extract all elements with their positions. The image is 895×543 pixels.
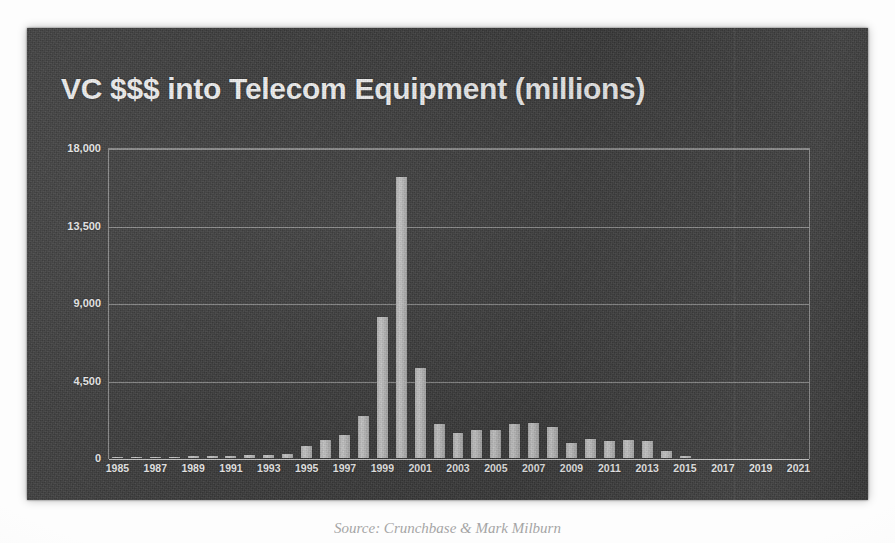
x-tick-label-1991: 1991 bbox=[219, 462, 242, 474]
bar-2011 bbox=[604, 441, 615, 458]
x-tick-label-1999: 1999 bbox=[371, 462, 394, 474]
bar-1991 bbox=[225, 456, 236, 458]
bar-1989 bbox=[188, 456, 199, 458]
x-tick-label-2009: 2009 bbox=[560, 462, 583, 474]
bar-1996 bbox=[320, 440, 331, 458]
bar-1988 bbox=[169, 457, 180, 458]
y-tick-label-0: 0 bbox=[95, 452, 101, 464]
x-tick-label-1987: 1987 bbox=[144, 462, 167, 474]
bar-1998 bbox=[358, 416, 369, 458]
x-tick-label-1997: 1997 bbox=[333, 462, 356, 474]
bar-2007 bbox=[528, 423, 539, 458]
x-tick-label-1989: 1989 bbox=[181, 462, 204, 474]
y-axis-labels: 04,5009,00013,50018,000 bbox=[27, 28, 101, 500]
x-tick-label-2011: 2011 bbox=[598, 462, 621, 474]
x-tick-label-2003: 2003 bbox=[446, 462, 469, 474]
x-tick-label-1995: 1995 bbox=[295, 462, 318, 474]
x-tick-label-2013: 2013 bbox=[636, 462, 659, 474]
bar-2000 bbox=[396, 177, 407, 458]
scanned-page: VC $$$ into Telecom Equipment (millions)… bbox=[0, 0, 895, 543]
bar-2012 bbox=[623, 440, 634, 458]
x-tick-label-1993: 1993 bbox=[257, 462, 280, 474]
x-axis-labels: 1985198719891991199319951997199920012003… bbox=[108, 462, 808, 482]
bar-1987 bbox=[150, 457, 161, 458]
x-tick-label-2021: 2021 bbox=[787, 462, 810, 474]
y-tick-label-9000: 9,000 bbox=[73, 297, 101, 309]
bar-1992 bbox=[244, 455, 255, 458]
bar-2015 bbox=[680, 456, 691, 458]
figure-caption: Source: Crunchbase & Mark Milburn bbox=[0, 520, 895, 537]
bar-2004 bbox=[471, 430, 482, 458]
y-tick-label-4500: 4,500 bbox=[73, 375, 101, 387]
bar-series bbox=[108, 148, 808, 458]
bar-2005 bbox=[490, 430, 501, 458]
bar-2008 bbox=[547, 427, 558, 458]
bar-2002 bbox=[434, 424, 445, 458]
x-tick-label-2017: 2017 bbox=[711, 462, 734, 474]
x-tick-label-2015: 2015 bbox=[673, 462, 696, 474]
y-tick-label-13500: 13,500 bbox=[67, 220, 101, 232]
bar-1986 bbox=[131, 457, 142, 458]
bar-1994 bbox=[282, 454, 293, 458]
x-tick-label-2001: 2001 bbox=[408, 462, 431, 474]
bar-2009 bbox=[566, 443, 577, 459]
bar-2001 bbox=[415, 368, 426, 458]
bar-2006 bbox=[509, 424, 520, 458]
presentation-slide-image: VC $$$ into Telecom Equipment (millions)… bbox=[27, 28, 868, 500]
x-tick-label-2019: 2019 bbox=[749, 462, 772, 474]
y-tick-label-18000: 18,000 bbox=[67, 142, 101, 154]
x-tick-label-2005: 2005 bbox=[484, 462, 507, 474]
x-tick-label-2007: 2007 bbox=[522, 462, 545, 474]
x-tick-label-1985: 1985 bbox=[106, 462, 129, 474]
bar-2013 bbox=[642, 441, 653, 458]
bar-2014 bbox=[661, 451, 672, 458]
bar-1990 bbox=[207, 456, 218, 458]
chart-title: VC $$$ into Telecom Equipment (millions) bbox=[61, 72, 645, 106]
bar-1993 bbox=[263, 455, 274, 458]
bar-2003 bbox=[453, 433, 464, 458]
bar-1997 bbox=[339, 435, 350, 458]
bar-1999 bbox=[377, 317, 388, 458]
gridline-0 bbox=[109, 459, 809, 460]
bar-1985 bbox=[112, 457, 123, 458]
bar-1995 bbox=[301, 446, 312, 458]
bar-2010 bbox=[585, 439, 596, 458]
